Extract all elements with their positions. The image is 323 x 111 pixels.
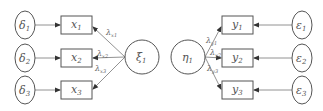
eta-1-latent: η1 (171, 40, 205, 74)
epsilon-1-node: ε1 (292, 11, 312, 39)
lambda-y3-label: λy3 (206, 64, 218, 75)
lambda-x2-label: λx2 (96, 49, 108, 59)
y2-box: y2 (222, 49, 253, 67)
y1-box: y1 (222, 16, 253, 34)
arrow-xi-x3 (93, 57, 125, 89)
x2-box: x2 (61, 49, 92, 67)
sem-diagram: δ1 δ2 δ3 x1 x2 x3 λx1 λx2 λx3 ξ1 η1 λy1 … (0, 0, 323, 111)
xi-1-latent: ξ1 (125, 40, 159, 74)
x1-box: x1 (61, 16, 92, 34)
epsilon-3-node: ε3 (292, 76, 312, 104)
y3-box: y3 (222, 81, 253, 99)
delta-2-node: δ2 (15, 44, 35, 72)
x3-box: x3 (61, 81, 92, 99)
epsilon-2-node: ε2 (292, 44, 312, 72)
lambda-x3-label: λx3 (94, 64, 106, 74)
delta-3-node: δ3 (15, 76, 35, 104)
delta-1-node: δ1 (15, 11, 35, 39)
lambda-x1-label: λx1 (105, 28, 117, 38)
